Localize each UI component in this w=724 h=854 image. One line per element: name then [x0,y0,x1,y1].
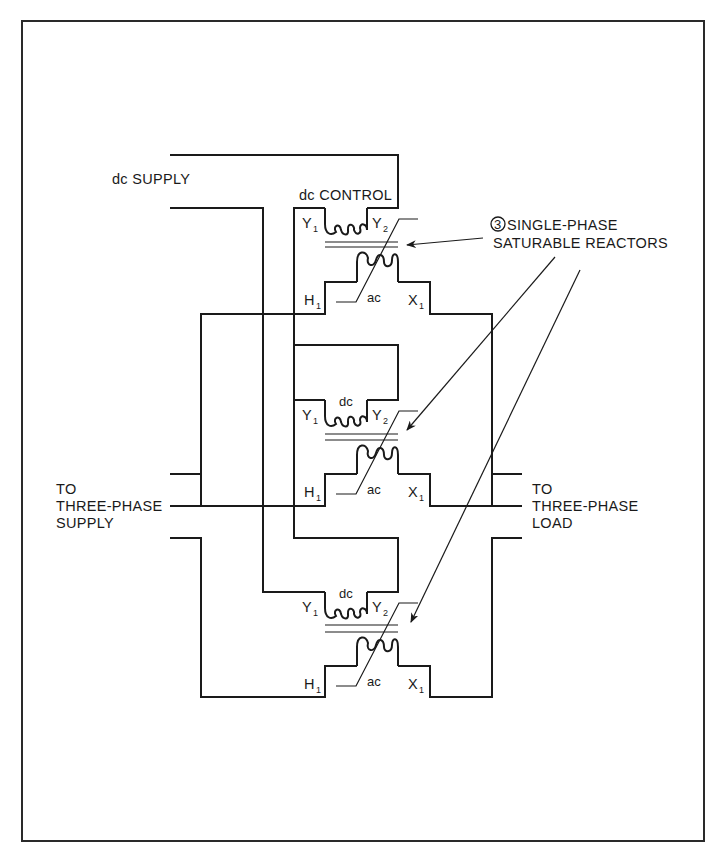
x1-sub: 1 [419,301,424,311]
y2-sub: 2 [383,416,388,426]
reactor-count: 3 [494,217,501,232]
y2-label: Y [372,215,382,231]
x1-label: X [408,484,418,500]
reactor-2 [170,345,522,592]
supply-label-line3: SUPPLY [56,515,114,531]
h1-sub: 1 [316,685,321,695]
x1-label: X [408,292,418,308]
reactors-label-line1: SINGLE-PHASE [507,217,618,233]
y1-label: Y [302,215,312,231]
y1-sub: 1 [313,416,318,426]
h1-sub: 1 [316,493,321,503]
y1-label: Y [302,407,312,423]
reactors-label-line2: SATURABLE REACTORS [493,235,668,251]
reactor-1-labels: Y 1 Y 2 H 1 ac X 1 [302,215,424,311]
ac-label: ac [367,482,381,497]
supply-label-line2: THREE-PHASE [56,498,162,514]
y1-sub: 1 [313,608,318,618]
reactor-3-labels: dc Y 1 Y 2 H 1 ac X 1 [302,586,424,695]
supply-label: TO THREE-PHASE SUPPLY [56,481,162,531]
dc-supply-label: dc SUPPLY [112,171,190,187]
load-label-line1: TO [532,481,552,497]
h1-label: H [304,676,315,692]
reactor-pointer-arrows [407,238,580,622]
reactor-2-labels: dc Y 1 Y 2 H 1 ac X 1 [302,394,424,503]
h1-label: H [304,484,315,500]
load-label-line2: THREE-PHASE [532,498,638,514]
supply-label-line1: TO [56,481,76,497]
y1-sub: 1 [313,224,318,234]
load-label: TO THREE-PHASE LOAD [532,481,638,531]
x1-label: X [408,676,418,692]
y1-label: Y [302,599,312,615]
load-label-line3: LOAD [532,515,573,531]
x1-sub: 1 [419,685,424,695]
h1-label: H [304,292,315,308]
y2-sub: 2 [383,608,388,618]
dc-control-label: dc CONTROL [299,187,392,203]
dc-supply-wiring [170,155,398,592]
ac-label: ac [367,674,381,689]
h1-sub: 1 [316,301,321,311]
x1-sub: 1 [419,493,424,503]
y2-sub: 2 [383,224,388,234]
reactor-3 [170,538,522,697]
dc-label: dc [339,586,353,601]
reactors-callout: 3 SINGLE-PHASE SATURABLE REACTORS [491,217,668,251]
saturable-reactor-schematic: dc SUPPLY dc CONTROL 3 SINGLE-PHASE SATU… [0,0,724,854]
ac-label: ac [367,290,381,305]
y2-label: Y [372,599,382,615]
dc-label: dc [339,394,353,409]
y2-label: Y [372,407,382,423]
